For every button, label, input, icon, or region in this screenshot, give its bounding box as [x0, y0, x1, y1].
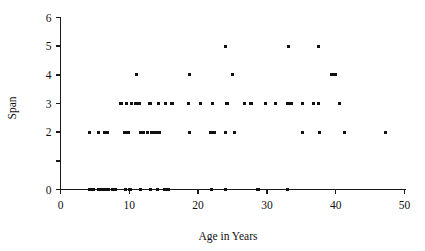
- data-point: [97, 188, 100, 191]
- x-tick-label: 0: [58, 199, 64, 211]
- data-point: [317, 45, 320, 48]
- data-point: [199, 102, 202, 105]
- data-point: [128, 188, 131, 191]
- data-point: [134, 102, 137, 105]
- data-point: [338, 102, 341, 105]
- data-point: [156, 188, 159, 191]
- data-point: [318, 131, 321, 134]
- data-point: [209, 131, 212, 134]
- data-point: [343, 131, 346, 134]
- data-point: [148, 102, 151, 105]
- y-tick-label: 2: [46, 126, 52, 138]
- data-point: [130, 102, 133, 105]
- data-point: [286, 102, 289, 105]
- data-point: [287, 45, 290, 48]
- data-point: [301, 102, 304, 105]
- data-point: [150, 131, 153, 134]
- data-point: [224, 188, 227, 191]
- x-axis-title: Age in Years: [198, 230, 258, 243]
- data-point: [88, 188, 91, 191]
- data-point: [312, 102, 315, 105]
- data-point: [139, 131, 142, 134]
- data-point: [123, 131, 126, 134]
- x-tick-label: 30: [261, 199, 273, 211]
- data-point: [139, 188, 142, 191]
- data-point: [170, 102, 173, 105]
- x-tick-labels: 01020304050: [58, 199, 411, 211]
- data-point: [384, 131, 387, 134]
- data-point: [101, 188, 104, 191]
- data-point: [233, 131, 236, 134]
- scatter-chart: 01020304050 023456 Age in Years Span: [0, 0, 425, 251]
- data-point: [103, 131, 106, 134]
- data-point: [149, 188, 152, 191]
- data-point: [264, 102, 267, 105]
- data-point: [301, 131, 304, 134]
- data-point: [188, 131, 191, 134]
- data-point: [210, 188, 213, 191]
- data-point: [111, 188, 114, 191]
- data-point: [142, 131, 145, 134]
- y-tick-labels: 023456: [46, 12, 52, 196]
- data-point: [106, 131, 109, 134]
- data-point: [164, 102, 167, 105]
- data-point: [256, 188, 259, 191]
- data-point: [152, 131, 155, 134]
- x-tick-label: 50: [399, 199, 411, 211]
- y-tick-label: 6: [46, 12, 52, 24]
- data-point: [289, 102, 292, 105]
- y-tick-label: 0: [46, 184, 52, 196]
- data-point: [92, 188, 95, 191]
- data-point: [104, 188, 107, 191]
- data-point: [163, 188, 166, 191]
- y-tick-label: 4: [46, 69, 52, 81]
- data-point: [243, 102, 246, 105]
- data-point: [231, 73, 234, 76]
- data-point: [119, 102, 122, 105]
- data-point: [97, 131, 100, 134]
- data-point: [88, 131, 91, 134]
- data-point: [188, 73, 191, 76]
- data-point: [157, 102, 160, 105]
- data-point: [224, 45, 227, 48]
- data-point: [146, 131, 149, 134]
- x-tick-label: 20: [192, 199, 204, 211]
- data-point: [137, 102, 140, 105]
- data-point: [211, 102, 214, 105]
- data-point: [187, 102, 190, 105]
- data-point: [167, 188, 170, 191]
- plot-area: 01020304050 023456 Age in Years Span: [0, 0, 425, 251]
- data-point: [124, 188, 127, 191]
- y-tick-label: 3: [46, 98, 52, 110]
- y-tick-label: 5: [46, 40, 52, 52]
- x-tick-label: 10: [124, 199, 136, 211]
- data-point: [135, 73, 138, 76]
- data-point: [333, 73, 336, 76]
- data-point: [274, 102, 277, 105]
- axes: [61, 18, 406, 190]
- data-point: [317, 102, 320, 105]
- data-point: [330, 73, 333, 76]
- data-points: [88, 45, 387, 192]
- data-point: [158, 131, 161, 134]
- data-point: [225, 102, 228, 105]
- data-point: [249, 102, 252, 105]
- data-point: [212, 131, 215, 134]
- tick-marks: [56, 18, 405, 195]
- data-point: [125, 102, 128, 105]
- data-point: [286, 188, 289, 191]
- y-axis-title: Span: [6, 96, 19, 119]
- data-point: [107, 188, 110, 191]
- data-point: [126, 131, 129, 134]
- data-point: [155, 131, 158, 134]
- data-point: [224, 131, 227, 134]
- data-point: [114, 188, 117, 191]
- x-tick-label: 40: [330, 199, 342, 211]
